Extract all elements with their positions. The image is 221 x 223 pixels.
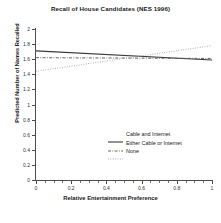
legend-label: Either Cable or Internet (126, 140, 182, 146)
legend-item: Cable and Internet (108, 130, 182, 139)
legend-line-sample (108, 148, 123, 154)
legend-label: None (126, 148, 139, 154)
legend-line-sample (108, 131, 123, 137)
legend-item: Either Cable or Internet (108, 139, 182, 148)
chart-legend: Cable and InternetEither Cable or Intern… (108, 130, 182, 156)
legend-line-sample (108, 140, 123, 146)
chart-figure: Recall of House Candidates (NES 1996) 00… (0, 0, 221, 223)
legend-label: Cable and Internet (126, 131, 170, 137)
series-lines (0, 0, 221, 223)
legend-item: None (108, 147, 182, 156)
